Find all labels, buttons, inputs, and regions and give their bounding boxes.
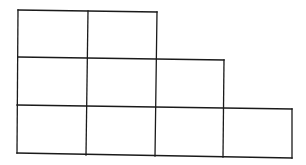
vertical-line-2: [86, 11, 88, 155]
row2-top-edge: [18, 57, 224, 60]
staircase-grid-diagram: [0, 0, 306, 165]
grid-lines: [17, 10, 292, 158]
vertical-line-3: [155, 12, 157, 156]
vertical-line-1: [17, 10, 18, 153]
row3-top-edge: [17, 105, 292, 109]
vertical-line-4: [223, 60, 224, 157]
